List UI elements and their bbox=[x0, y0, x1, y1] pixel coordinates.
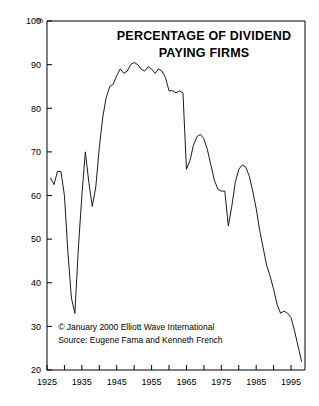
annotation-copyright: © January 2000 Elliott Wave Internationa… bbox=[58, 322, 214, 332]
y-tick-label: 30 bbox=[31, 322, 41, 332]
x-tick-label: 1965 bbox=[176, 377, 196, 387]
x-tick-label: 1945 bbox=[107, 377, 127, 387]
chart-container: 1009080706050403020 19251935194519551965… bbox=[0, 0, 319, 406]
dividend-paying-firms-chart: 1009080706050403020 19251935194519551965… bbox=[0, 0, 319, 406]
y-tick-label: 20 bbox=[31, 365, 41, 375]
y-tick-label: 70 bbox=[31, 147, 41, 157]
chart-background bbox=[0, 0, 319, 406]
y-axis-unit-label: % bbox=[36, 16, 43, 25]
chart-title-line-1: PERCENTAGE OF DIVIDEND bbox=[117, 29, 291, 43]
y-tick-label: 60 bbox=[31, 191, 41, 201]
x-tick-label: 1975 bbox=[211, 377, 231, 387]
x-tick-label: 1985 bbox=[246, 377, 266, 387]
x-tick-label: 1935 bbox=[72, 377, 92, 387]
annotation-source: Source: Eugene Fama and Kenneth French bbox=[58, 335, 223, 345]
chart-title-line-2: PAYING FIRMS bbox=[159, 46, 250, 60]
x-tick-label: 1955 bbox=[142, 377, 162, 387]
x-tick-label: 1995 bbox=[281, 377, 301, 387]
y-tick-label: 90 bbox=[31, 60, 41, 70]
y-tick-label: 80 bbox=[31, 104, 41, 114]
x-tick-label: 1925 bbox=[37, 377, 57, 387]
y-tick-label: 40 bbox=[31, 278, 41, 288]
y-tick-label: 50 bbox=[31, 234, 41, 244]
